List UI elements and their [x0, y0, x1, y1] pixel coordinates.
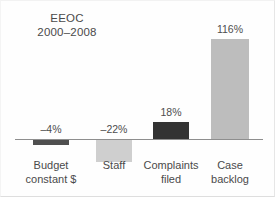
- bar-complaints: [153, 122, 189, 139]
- bar-value-staff: –22%: [82, 123, 146, 135]
- bar-budget: [33, 140, 69, 145]
- bar-value-complaints: 18%: [139, 106, 203, 118]
- bar-category-case-backlog-line-2: backlog: [186, 173, 274, 187]
- bar-group-case-backlog: 116% Case backlog: [211, 1, 249, 197]
- bar-category-case-backlog-line-1: Case: [186, 159, 274, 173]
- bar-category-budget-line-2: constant $: [7, 173, 95, 187]
- bar-group-complaints: 18% Complaints filed: [153, 1, 189, 197]
- bar-value-budget: –4%: [19, 123, 83, 135]
- plot-area: –4% Budget constant $ –22% Staff 18% Com…: [1, 1, 275, 197]
- bar-case-backlog: [211, 39, 249, 139]
- eeoc-bar-chart: EEOC 2000–2008 –4% Budget constant $ –22…: [0, 0, 275, 197]
- bar-category-case-backlog: Case backlog: [186, 159, 274, 186]
- bar-group-budget: –4% Budget constant $: [33, 1, 69, 197]
- bar-value-case-backlog: 116%: [198, 23, 262, 35]
